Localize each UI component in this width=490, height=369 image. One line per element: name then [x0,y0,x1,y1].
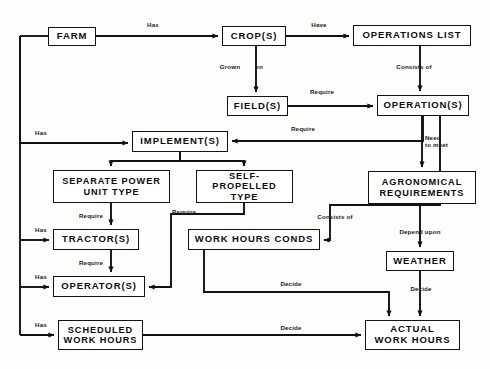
node-operations[interactable]: OPERATION(S) [377,95,469,116]
edge-label-decide-scheduled: Decide [276,324,306,331]
node-weather[interactable]: WEATHER [386,251,454,271]
edge-label-require-tractors: Require [74,212,108,219]
node-operators[interactable]: OPERATOR(S) [53,276,145,297]
edge-label-consists-of-top: Consists of [392,63,436,70]
edge-label-has-operators: Has [30,273,52,280]
node-separate-power-unit-type[interactable]: SEPARATE POWER UNIT TYPE [53,170,170,203]
edge-label-decide-weather: Decide [406,285,436,292]
edge-label-require-fields: Require [305,88,339,95]
edge-label-require-implements: Require [286,125,320,132]
edge-label-has-crops: Has [141,21,165,28]
edge-label-have: Have [306,21,332,28]
edge-label-has-implements: Has [30,129,52,136]
edge-farm-implements [20,36,128,143]
node-self-propelled-type[interactable]: SELF-PROPELLED TYPE [196,170,293,203]
edge-label-has-scheduled: Has [30,321,52,328]
node-scheduled-work-hours[interactable]: SCHEDULED WORK HOURS [58,320,143,350]
edge-label-decide-conds: Decide [276,280,306,287]
edge-operations-implements [232,116,423,141]
node-operations-list[interactable]: OPERATIONS LIST [353,25,471,46]
edge-label-need-to-meet: Need to meet [425,134,459,148]
edge-label-has-tractors: Has [30,226,52,233]
flowchart-canvas: FARM CROP(S) OPERATIONS LIST FIELD(S) OP… [0,0,490,369]
edge-implements-separate [111,152,180,166]
edge-label-require-operators: Require [74,259,108,266]
edge-implements-selfprop [180,152,244,166]
node-implements[interactable]: IMPLEMENT(S) [132,131,228,152]
edge-label-depend-upon: Depend upon [394,228,446,235]
node-tractors[interactable]: TRACTOR(S) [53,229,139,250]
edge-label-on: on [251,63,267,70]
edge-label-require-selfpropelled: Require [167,208,201,215]
node-agronomical-requirements[interactable]: AGRONOMICAL REQUIREMENTS [368,171,476,204]
node-fields[interactable]: FIELD(S) [227,96,288,116]
node-crops[interactable]: CROP(S) [222,26,286,46]
node-work-hours-conds[interactable]: WORK HOURS CONDS [188,229,320,250]
node-farm[interactable]: FARM [48,27,96,46]
edge-label-consists-of-conds: Consists of [313,213,357,220]
node-actual-work-hours[interactable]: ACTUAL WORK HOURS [365,320,460,350]
edge-label-grown: Grown [216,63,244,70]
